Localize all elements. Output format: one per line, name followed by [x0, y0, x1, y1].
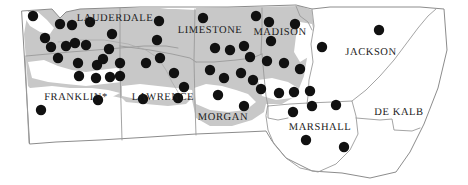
- map-dot: [289, 87, 299, 97]
- map-dot: [279, 58, 289, 68]
- map-dot: [115, 71, 125, 81]
- map-dot: [53, 53, 63, 63]
- map-dot: [262, 56, 272, 66]
- map-dot: [105, 72, 115, 82]
- map-dot: [107, 29, 117, 39]
- map-dot: [85, 17, 95, 27]
- map-dot: [55, 19, 65, 29]
- map-dot: [74, 71, 84, 81]
- map-dot: [205, 65, 215, 75]
- map-dot: [307, 101, 317, 111]
- map-dot: [104, 44, 114, 54]
- map-dot: [295, 64, 305, 74]
- map-dot: [274, 88, 284, 98]
- map-dot: [210, 43, 220, 53]
- map-dot: [245, 52, 255, 62]
- map-dot: [179, 82, 189, 92]
- map-dot: [251, 11, 261, 21]
- map-dot: [141, 58, 151, 68]
- map-dot: [266, 36, 276, 46]
- map-dot: [152, 35, 162, 45]
- map-dot: [213, 90, 223, 100]
- map-dot: [239, 41, 249, 51]
- map-dot: [46, 42, 56, 52]
- map-dot: [73, 58, 83, 68]
- map-dot: [288, 107, 298, 117]
- map-dot: [317, 42, 327, 52]
- map-dot: [305, 86, 315, 96]
- map-dot: [264, 17, 274, 27]
- map-dot: [70, 38, 80, 48]
- map-dot: [40, 33, 50, 43]
- map-figure: LAUDERDALELIMESTONEMADISONJACKSONFRANKLI…: [0, 0, 468, 185]
- map-dot: [248, 75, 258, 85]
- map-dot: [236, 68, 246, 78]
- map-dot: [67, 20, 77, 30]
- map-dot: [93, 95, 103, 105]
- map-dot: [138, 94, 148, 104]
- map-dot: [155, 53, 165, 63]
- map-dot: [198, 13, 208, 23]
- map-dot: [115, 58, 125, 68]
- map-dot: [173, 93, 183, 103]
- map-dot: [28, 11, 38, 21]
- map-dot: [225, 45, 235, 55]
- map-dot: [374, 25, 384, 35]
- map-dot: [256, 84, 266, 94]
- map-dot: [154, 16, 164, 26]
- map-dot: [339, 142, 349, 152]
- map-dot: [301, 135, 311, 145]
- map-dot: [219, 73, 229, 83]
- map-dot: [290, 19, 300, 29]
- map-dot: [98, 54, 108, 64]
- map-dot: [331, 100, 341, 110]
- map-dot: [81, 40, 91, 50]
- map-dot: [36, 105, 46, 115]
- map-dot: [91, 73, 101, 83]
- map-dot: [239, 101, 249, 111]
- map-dot: [169, 68, 179, 78]
- map-dot: [61, 41, 71, 51]
- map-svg: [0, 0, 468, 185]
